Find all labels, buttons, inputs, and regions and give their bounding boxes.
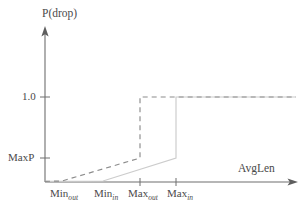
x-tick-subscript: in [187, 193, 193, 202]
x-tick-label-max-out: Maxout [128, 188, 158, 199]
x-tick-base: Max [128, 187, 148, 199]
x-tick-base: Max [167, 187, 187, 199]
y-axis [41, 26, 48, 182]
x-axis-title: AvgLen [238, 163, 275, 175]
y-axis-title: P(drop) [42, 8, 77, 20]
x-tick-subscript: in [112, 193, 118, 202]
x-tick-label-min-in: Minin [94, 188, 118, 199]
x-tick-base: Min [94, 187, 112, 199]
x-tick-subscript: out [68, 193, 78, 202]
x-axis [45, 178, 298, 185]
x-tick-base: Min [50, 187, 68, 199]
y-tick-label-one: 1.0 [22, 91, 36, 102]
red-drop-probability-figure: P(drop) AvgLen 1.0 MaxP Minout Minin Max… [0, 0, 304, 210]
x-tick-label-max-in: Maxin [167, 188, 193, 199]
x-tick-subscript: out [148, 193, 158, 202]
y-tick-label-maxp: MaxP [8, 152, 34, 163]
plot-canvas [0, 0, 304, 210]
x-tick-label-min-out: Minout [50, 188, 78, 199]
